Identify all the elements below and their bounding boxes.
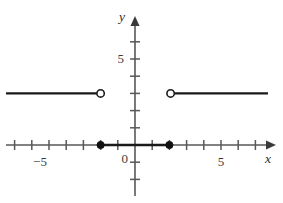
piecewise-function-graph: −5 5 0 5 x y bbox=[0, 0, 283, 203]
closed-point-right bbox=[166, 141, 173, 148]
x-tick-label-neg5: −5 bbox=[33, 154, 47, 169]
y-tick-label-5: 5 bbox=[118, 51, 125, 66]
open-point-left bbox=[97, 90, 104, 97]
plot-background bbox=[0, 0, 283, 203]
graph-canvas: −5 5 0 5 x y bbox=[0, 0, 283, 203]
origin-label: 0 bbox=[122, 151, 129, 166]
y-axis-label: y bbox=[117, 9, 125, 24]
x-tick-label-5: 5 bbox=[218, 154, 225, 169]
closed-point-left bbox=[97, 141, 104, 148]
x-axis-label: x bbox=[264, 151, 271, 166]
open-point-right bbox=[167, 90, 174, 97]
